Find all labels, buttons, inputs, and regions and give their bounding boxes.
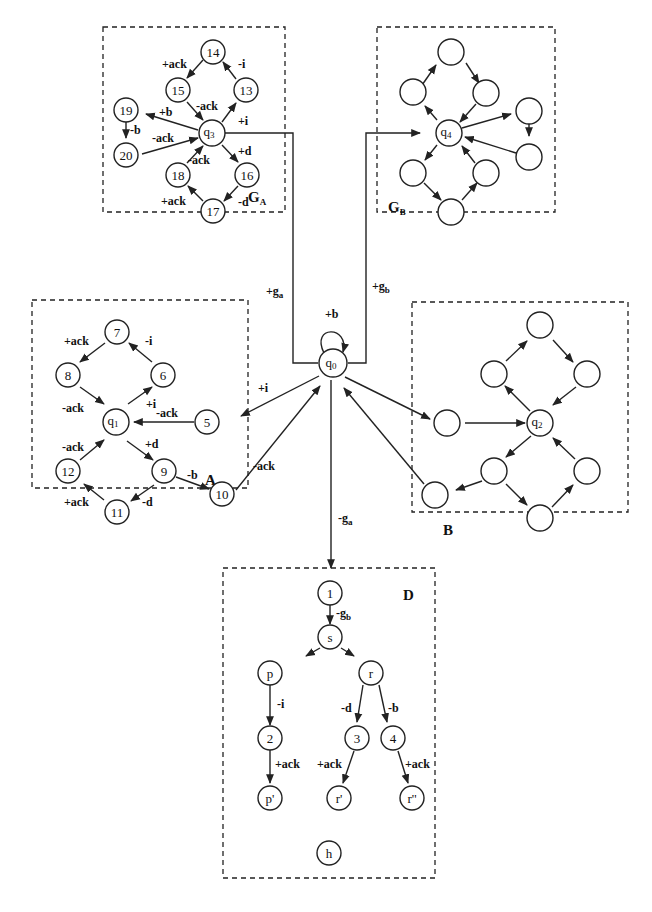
svg-text:20: 20 [120, 148, 133, 163]
label-A-8-q1: -ack [62, 401, 84, 415]
svg-text:17: 17 [207, 204, 221, 219]
label-GA-18-q3: -ack [188, 153, 210, 167]
edge-b-l1-top [506, 341, 527, 361]
label-A-12-q1: -ack [62, 440, 84, 454]
node-p-prime: p' [258, 786, 282, 810]
label-D-2-pp: +ack [275, 757, 300, 771]
box-label-B: B [443, 522, 453, 538]
node-15: 15 [166, 78, 190, 102]
svg-text:r': r' [336, 791, 343, 806]
box-D [223, 568, 435, 878]
node-8: 8 [56, 363, 80, 387]
node-gb-right1 [473, 80, 499, 106]
edge-17-18 [188, 186, 203, 201]
label-A-q1-9: +d [145, 437, 159, 451]
node-4: 4 [381, 726, 405, 750]
svg-text:16: 16 [241, 168, 255, 183]
label-D-r-3: -d [341, 701, 352, 715]
svg-text:18: 18 [172, 168, 185, 183]
label-GA-20-q3: -ack [152, 131, 174, 145]
node-7: 7 [105, 320, 129, 344]
edge-gb-l2-bot [424, 183, 441, 200]
node-q1: q1 [103, 409, 129, 435]
node-gb-q4: q4 [436, 120, 462, 146]
node-b-left [434, 410, 460, 436]
label-A-5-q1: -ack [156, 406, 178, 420]
node-b-bottom-left [422, 482, 448, 508]
node-13: 13 [234, 78, 258, 102]
node-b-left1 [481, 361, 507, 387]
node-6: 6 [151, 363, 175, 387]
edge-13-14 [223, 62, 236, 79]
edge-gb-q4-l2 [425, 145, 437, 160]
svg-text:s: s [327, 630, 332, 645]
label-D-r-4: -b [388, 701, 399, 715]
node-14: 14 [201, 40, 225, 64]
node-1: 1 [318, 581, 342, 605]
node-gb-right2 [473, 160, 499, 186]
label-plus-gb: +gb [372, 279, 390, 295]
node-b-bot [527, 505, 553, 531]
edge-b-top-r1 [553, 340, 573, 362]
node-18: 18 [166, 163, 190, 187]
node-h: h [317, 841, 341, 865]
node-b-left2 [481, 458, 507, 484]
svg-text:6: 6 [160, 368, 167, 383]
node-b-q2: q2 [527, 410, 553, 436]
node-20: 20 [114, 143, 138, 167]
edge-14-15 [187, 60, 203, 78]
node-gb-left1 [400, 79, 426, 105]
label-GA-13-14: -i [238, 57, 246, 71]
node-gb-right-bot [516, 144, 542, 170]
edge-q3-13 [222, 103, 236, 122]
edge-r-3 [357, 685, 363, 722]
node-10: 10 [210, 482, 234, 506]
svg-text:19: 19 [120, 103, 133, 118]
label-D-4-rpp: +ack [405, 757, 430, 771]
svg-text:12: 12 [62, 464, 75, 479]
label-GA-15-q3: -ack [196, 99, 218, 113]
label-GA-q3-16: +d [238, 144, 252, 158]
edge-3-rp [343, 751, 354, 783]
label-10-q0: -ack [253, 459, 275, 473]
svg-text:p': p' [266, 791, 275, 806]
svg-text:7: 7 [114, 325, 121, 340]
edge-b-l2-bl [456, 481, 482, 490]
edge-b-r1-q2 [553, 387, 576, 405]
svg-text:9: 9 [161, 464, 168, 479]
node-5: 5 [195, 410, 219, 434]
edge-gb-r1-q4 [460, 104, 476, 122]
box-label-GA: GA [248, 189, 267, 207]
node-gb-left2 [400, 160, 426, 186]
label-q0-5: +i [258, 381, 269, 395]
state-diagram: GA GB A B D +ga +gb +b +i -ack -ga q0 +a… [0, 0, 652, 912]
edge-b-l2-bot [506, 484, 527, 505]
node-q3: q3 [199, 120, 225, 146]
label-A-9-10: -b [187, 468, 198, 482]
node-r-prime: r' [327, 786, 351, 810]
node-2: 2 [258, 726, 282, 750]
edge-gb-rb-q4 [465, 137, 516, 153]
label-GA-q3-13: +i [238, 114, 249, 128]
svg-text:4: 4 [390, 731, 397, 746]
edge-gb-r2-q4 [462, 146, 475, 163]
label-GA-19-20: -b [130, 123, 141, 137]
label-D-3-rp: +ack [317, 757, 342, 771]
edge-b-q2-l1 [505, 386, 530, 411]
svg-text:8: 8 [65, 368, 72, 383]
label-GA-14-15: +ack [162, 57, 187, 71]
label-D-p-2: -i [277, 697, 285, 711]
edge-r-4 [379, 685, 387, 722]
node-r-dprime: r'' [400, 786, 424, 810]
node-q0: q0 [319, 349, 347, 377]
node-s: s [318, 625, 342, 649]
node-19: 19 [114, 98, 138, 122]
label-A-11-12: +ack [64, 495, 89, 509]
node-12: 12 [56, 459, 80, 483]
svg-text:5: 5 [204, 415, 211, 430]
edge-s-left [306, 648, 320, 656]
node-p: p [258, 661, 282, 685]
edge-q0-to-B [345, 377, 430, 419]
edge-16-17 [224, 186, 238, 201]
svg-text:14: 14 [207, 45, 221, 60]
